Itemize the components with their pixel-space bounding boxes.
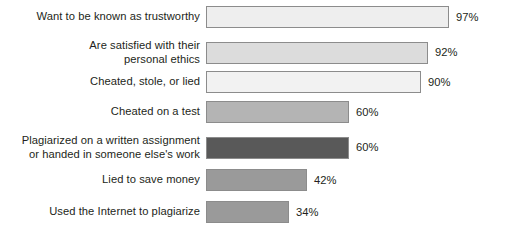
bar-track: 90%: [206, 71, 510, 93]
bar-value-label: 90%: [421, 76, 450, 89]
bar-track: 42%: [206, 169, 510, 191]
bar: [206, 137, 349, 159]
bar-category-label: Cheated on a test: [0, 105, 206, 119]
bar-row: Plagiarized on a written assignment or h…: [0, 134, 510, 161]
bar-row: Lied to save money42%: [0, 169, 510, 191]
bar-row: Want to be known as trustworthy97%: [0, 6, 510, 28]
bar-value-label: 60%: [349, 141, 378, 154]
bar-value-label: 97%: [449, 11, 478, 24]
bar: [206, 42, 428, 64]
bar-value-label: 60%: [349, 106, 378, 119]
bar-category-label: Want to be known as trustworthy: [0, 10, 206, 24]
bar-track: 92%: [206, 42, 510, 64]
bar: [206, 6, 449, 28]
bar: [206, 71, 421, 93]
bar-row: Cheated on a test60%: [0, 101, 510, 123]
bar-track: 34%: [206, 201, 510, 223]
bar-track: 97%: [206, 6, 510, 28]
bar: [206, 101, 349, 123]
bar-row: Cheated, stole, or lied90%: [0, 71, 510, 93]
bar: [206, 169, 307, 191]
bar: [206, 201, 289, 223]
bar-row: Used the Internet to plagiarize34%: [0, 201, 510, 223]
bar-category-label: Cheated, stole, or lied: [0, 75, 206, 89]
bar-row: Are satisfied with their personal ethics…: [0, 39, 510, 66]
bar-track: 60%: [206, 101, 510, 123]
bar-category-label: Lied to save money: [0, 173, 206, 187]
bar-value-label: 42%: [307, 174, 336, 187]
bar-category-label: Plagiarized on a written assignment or h…: [0, 134, 206, 161]
bar-chart: Want to be known as trustworthy97%Are sa…: [0, 0, 510, 235]
bar-value-label: 92%: [428, 46, 457, 59]
bar-value-label: 34%: [289, 206, 318, 219]
bar-category-label: Used the Internet to plagiarize: [0, 205, 206, 219]
bar-category-label: Are satisfied with their personal ethics: [0, 39, 206, 66]
bar-track: 60%: [206, 137, 510, 159]
